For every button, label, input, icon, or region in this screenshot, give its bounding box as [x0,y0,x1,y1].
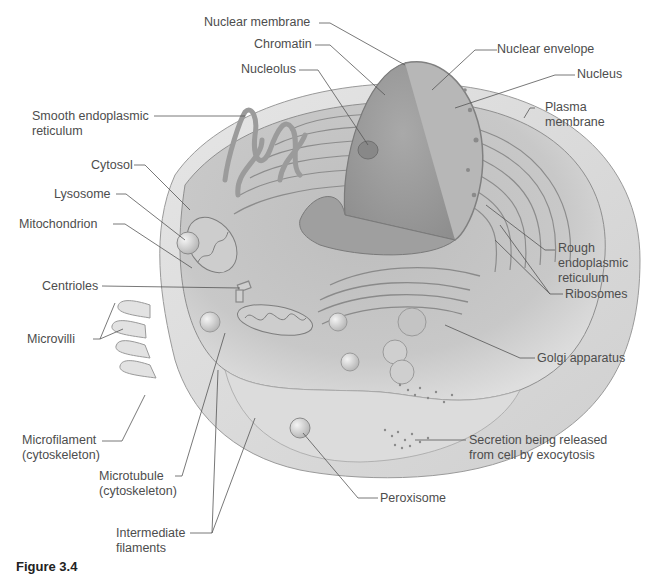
label-chromatin: Chromatin [254,37,312,52]
label-intermediate-line1: Intermediate [116,526,185,541]
label-rough-er-line3: reticulum [558,271,628,286]
nucleolus-shape [358,141,378,159]
label-lysosome: Lysosome [54,187,111,202]
label-ribosomes: Ribosomes [565,287,628,302]
label-centrioles: Centrioles [42,279,98,294]
label-microtubule-line2: (cytoskeleton) [99,484,177,499]
label-smooth-er: Smooth endoplasmic reticulum [32,109,149,139]
label-peroxisome: Peroxisome [380,491,446,506]
label-rough-er-line1: Rough [558,241,628,256]
label-nuclear-envelope: Nuclear envelope [497,42,594,57]
label-smooth-er-line2: reticulum [32,124,149,139]
label-secretion: Secretion being released from cell by ex… [469,433,607,463]
label-intermediate-line2: filaments [116,541,185,556]
peroxisome-shape [290,418,310,438]
label-microtubule: Microtubule (cytoskeleton) [99,469,177,499]
lysosome-shape [177,232,199,254]
label-microfilament-line1: Microfilament [22,433,100,448]
label-mitochondrion: Mitochondrion [19,217,98,232]
label-plasma-membrane: Plasma membrane [545,100,605,130]
label-microfilament: Microfilament (cytoskeleton) [22,433,100,463]
label-rough-er: Rough endoplasmic reticulum [558,241,628,286]
label-cytosol: Cytosol [91,158,133,173]
label-intermediate-filaments: Intermediate filaments [116,526,185,556]
microvilli [112,301,156,378]
figure-caption: Figure 3.4 [16,559,77,574]
label-nuclear-membrane: Nuclear membrane [204,15,310,30]
label-microfilament-line2: (cytoskeleton) [22,448,100,463]
label-nucleus: Nucleus [577,67,622,82]
label-plasma-membrane-line1: Plasma [545,100,605,115]
label-secretion-line2: from cell by exocytosis [469,448,607,463]
label-nucleolus: Nucleolus [241,62,296,77]
label-microvilli: Microvilli [27,332,75,347]
label-smooth-er-line1: Smooth endoplasmic [32,109,149,124]
label-rough-er-line2: endoplasmic [558,256,628,271]
label-secretion-line1: Secretion being released [469,433,607,448]
label-plasma-membrane-line2: membrane [545,115,605,130]
label-golgi-apparatus: Golgi apparatus [537,351,625,366]
label-microtubule-line1: Microtubule [99,469,177,484]
